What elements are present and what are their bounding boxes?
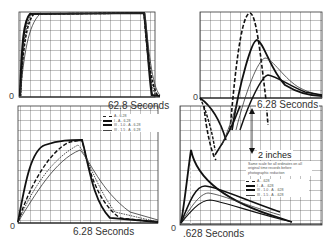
thick-dashed-line-swatch-icon	[103, 124, 112, 126]
bottom-left-x-label: 6.28 Seconds	[73, 227, 134, 237]
legend-item: III - 1.5 - A - 6.28	[103, 128, 161, 133]
thick-line-swatch-icon	[103, 120, 112, 122]
top-right-x-label: 6.28 Seconds	[256, 100, 319, 110]
thin-line-swatch-icon	[246, 195, 255, 196]
bottom-left-origin-label: 0	[10, 222, 15, 231]
legend-item: III - 1.5 - A - .628	[246, 193, 308, 198]
dashed-line-swatch-icon	[103, 116, 112, 117]
top-left-x-label: 62.8 Seconds	[108, 101, 169, 111]
thick-dashed-line-swatch-icon	[246, 189, 255, 191]
panel-top-left	[19, 12, 160, 97]
thick-line-swatch-icon	[246, 185, 255, 187]
dashed-line-swatch-icon	[246, 181, 255, 182]
bottom-right-x-label: .628 Seconds	[183, 229, 244, 239]
top-left-origin-label: 0	[9, 92, 14, 101]
bottom-right-legend: A - .628 I - A - .628 III - 1.0 - A - .6…	[245, 179, 309, 197]
scale-label: 2 inches	[257, 150, 293, 160]
top-right-origin-label: 0	[193, 93, 198, 102]
scale-note: Same scale for all ordinates on all orig…	[246, 161, 312, 176]
bottom-right-origin-label: 0	[171, 224, 176, 233]
chart-canvas	[0, 0, 334, 247]
bottom-left-legend: A - 6.28 I - A - 6.28 III - 1.0 - A - 6.…	[102, 114, 162, 132]
thin-line-swatch-icon	[103, 130, 112, 131]
